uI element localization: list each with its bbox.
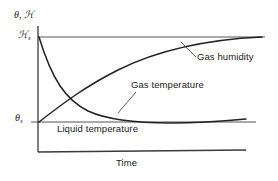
x-axis-title: Time: [116, 158, 137, 168]
x-axis-line: [38, 150, 246, 152]
y-tick-label-liquid-saturation: θs: [15, 113, 23, 125]
annotation-gas-humidity: Gas humidity: [197, 52, 254, 62]
theta-s-subscript: s: [20, 117, 23, 125]
chart-canvas: [0, 0, 278, 181]
y-axis-title: θ, ℋ: [14, 10, 34, 21]
h-s-symbol: ℋ: [18, 29, 28, 40]
chart-figure: θ, ℋ ℋs θs Gas humidity Gas temperature …: [0, 0, 278, 181]
y-axis-title-humidity: ℋ: [24, 9, 34, 20]
h-s-subscript: s: [28, 34, 31, 42]
annotation-gas-temperature: Gas temperature: [131, 80, 204, 90]
y-tick-label-humidity-saturation: ℋs: [18, 30, 31, 42]
annotation-liquid-temperature: Liquid temperature: [57, 124, 138, 134]
gas-temperature-leader-line: [118, 92, 136, 113]
